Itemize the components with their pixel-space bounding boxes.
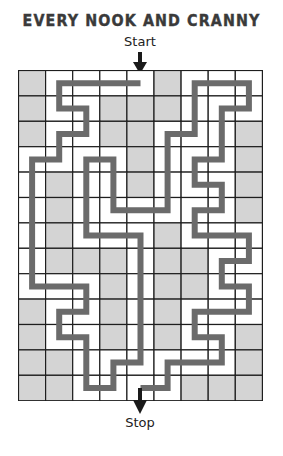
shaded-cell[interactable]: [154, 274, 181, 299]
shaded-cell[interactable]: [127, 121, 154, 146]
shaded-cell[interactable]: [46, 198, 73, 223]
shaded-cell[interactable]: [19, 350, 46, 375]
shaded-cell[interactable]: [100, 299, 127, 324]
shaded-cell[interactable]: [19, 71, 46, 96]
shaded-cell[interactable]: [127, 172, 154, 197]
shaded-cell[interactable]: [100, 274, 127, 299]
shaded-cell[interactable]: [73, 248, 100, 273]
shaded-cell[interactable]: [19, 375, 46, 400]
shaded-cell[interactable]: [235, 147, 262, 172]
shaded-cell[interactable]: [235, 375, 262, 400]
start-label: Start: [110, 34, 170, 49]
puzzle-title: EVERY NOOK AND CRANNY: [11, 12, 271, 30]
shaded-cell[interactable]: [46, 172, 73, 197]
shaded-cell[interactable]: [100, 121, 127, 146]
shaded-cell[interactable]: [208, 375, 235, 400]
shaded-cell[interactable]: [235, 121, 262, 146]
shaded-cell[interactable]: [181, 248, 208, 273]
shaded-cell[interactable]: [154, 223, 181, 248]
shaded-cell[interactable]: [46, 248, 73, 273]
shaded-cell[interactable]: [235, 198, 262, 223]
shaded-cell[interactable]: [19, 121, 46, 146]
shaded-cell[interactable]: [154, 71, 181, 96]
shaded-cell[interactable]: [154, 248, 181, 273]
shaded-cell[interactable]: [100, 96, 127, 121]
maze-grid[interactable]: [18, 70, 263, 401]
shaded-cell[interactable]: [100, 248, 127, 273]
shaded-cell[interactable]: [127, 147, 154, 172]
shaded-cell[interactable]: [235, 172, 262, 197]
shaded-cell[interactable]: [19, 96, 46, 121]
stop-arrow-icon: [133, 388, 147, 414]
shaded-cell[interactable]: [154, 96, 181, 121]
shaded-cell[interactable]: [100, 325, 127, 350]
shaded-cell[interactable]: [154, 299, 181, 324]
shaded-cell[interactable]: [46, 223, 73, 248]
stop-label: Stop: [110, 415, 170, 430]
shaded-cell[interactable]: [181, 375, 208, 400]
shaded-cell[interactable]: [46, 350, 73, 375]
shaded-cell[interactable]: [46, 375, 73, 400]
shaded-cell[interactable]: [181, 274, 208, 299]
shaded-cell[interactable]: [19, 299, 46, 324]
shaded-cell[interactable]: [235, 350, 262, 375]
shaded-cell[interactable]: [235, 325, 262, 350]
shaded-cell[interactable]: [154, 325, 181, 350]
shaded-cell[interactable]: [19, 325, 46, 350]
shaded-cell[interactable]: [127, 96, 154, 121]
